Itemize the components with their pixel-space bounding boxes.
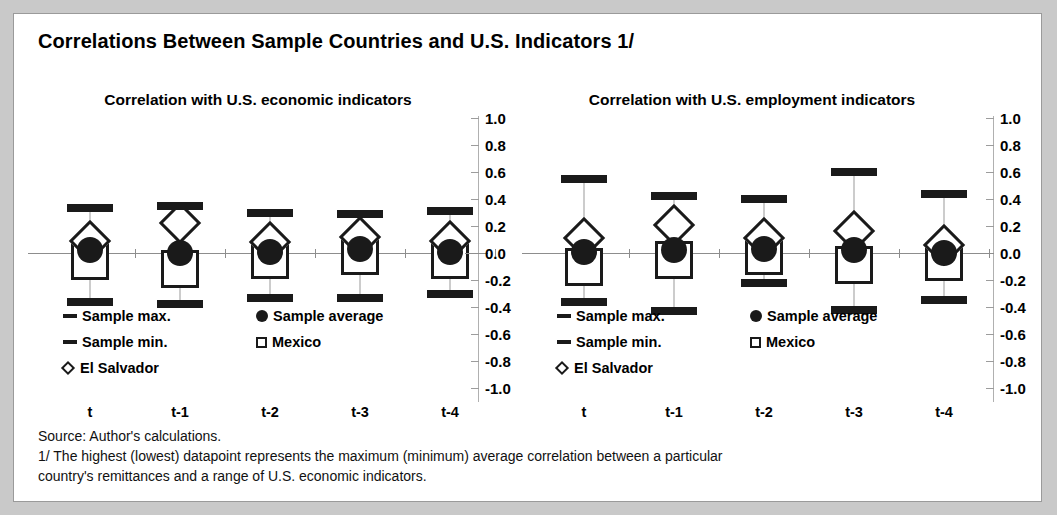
marker-sample-max: [337, 210, 383, 218]
y-axis-tick: [986, 145, 994, 146]
x-axis-label-t-3: t-3: [845, 404, 863, 420]
marker-sample-average: [77, 237, 103, 263]
x-axis-label-t-1: t-1: [171, 404, 189, 420]
legend-el-salvador-label: El Salvador: [574, 360, 653, 376]
y-axis-tick: [471, 199, 479, 200]
y-axis-tick-label: 0.6: [485, 164, 506, 181]
legend-sample-max: Sample max.: [63, 308, 171, 324]
dash-icon: [63, 314, 77, 318]
marker-sample-max: [67, 204, 113, 212]
marker-sample-max: [831, 168, 877, 176]
x-axis-tick: [315, 249, 316, 258]
panel-title-employment: Correlation with U.S. employment indicat…: [522, 91, 982, 109]
marker-sample-max: [561, 175, 607, 183]
x-axis-tick: [719, 249, 720, 258]
x-axis-label-t-4: t-4: [441, 404, 459, 420]
legend-sample-max-label: Sample max.: [82, 308, 171, 324]
marker-sample-min: [921, 296, 967, 304]
marker-sample-min: [337, 294, 383, 302]
y-axis-tick: [471, 388, 479, 389]
legend-mexico: Mexico: [256, 334, 321, 350]
marker-sample-max: [157, 202, 203, 210]
legend-sample-max: Sample max.: [557, 308, 665, 324]
legend-sample-min: Sample min.: [557, 334, 661, 350]
y-axis-tick: [986, 118, 994, 119]
y-axis-tick-label: 0.8: [1000, 137, 1021, 154]
marker-sample-max: [921, 190, 967, 198]
dash-icon: [63, 340, 77, 344]
marker-sample-min: [427, 290, 473, 298]
marker-sample-max: [427, 207, 473, 215]
legend-sample-average-label: Sample average: [273, 308, 383, 324]
y-axis-tick-label: 1.0: [485, 110, 506, 127]
x-axis-tick: [405, 249, 406, 258]
legend-el-salvador: El Salvador: [63, 360, 159, 376]
marker-sample-average: [347, 236, 373, 262]
y-axis-tick-label: -1.0: [485, 380, 511, 397]
legend-sample-min-label: Sample min.: [82, 334, 167, 350]
axis-spine: [478, 116, 479, 402]
y-axis-tick-label: -1.0: [1000, 380, 1026, 397]
dash-icon: [557, 314, 571, 318]
y-axis-tick-label: 0.0: [1000, 245, 1021, 262]
dash-icon: [557, 340, 571, 344]
y-axis-tick-label: -0.2: [485, 272, 511, 289]
legend-el-salvador-label: El Salvador: [80, 360, 159, 376]
legend-sample-min-label: Sample min.: [576, 334, 661, 350]
y-axis-tick: [471, 361, 479, 362]
marker-sample-max: [741, 195, 787, 203]
source-line: Source: Author's calculations.: [38, 426, 938, 446]
y-axis-tick: [986, 226, 994, 227]
y-axis-tick-label: -0.2: [1000, 272, 1026, 289]
marker-sample-average: [437, 239, 463, 265]
legend-sample-average-label: Sample average: [767, 308, 877, 324]
marker-sample-average: [931, 240, 957, 266]
y-axis-tick: [471, 334, 479, 335]
open-square-icon: [750, 337, 761, 348]
x-axis-tick: [225, 249, 226, 258]
marker-sample-max: [247, 209, 293, 217]
y-axis-tick: [986, 307, 994, 308]
marker-sample-average: [661, 237, 687, 263]
y-axis-tick: [986, 172, 994, 173]
legend-sample-max-label: Sample max.: [576, 308, 665, 324]
y-axis-tick-label: 0.0: [485, 245, 506, 262]
y-axis-tick-label: 0.2: [485, 218, 506, 235]
y-axis-tick-label: 0.4: [485, 191, 506, 208]
y-axis-tick: [471, 226, 479, 227]
chart-panel-economic: Correlation with U.S. economic indicator…: [28, 82, 488, 402]
y-axis-tick: [986, 388, 994, 389]
footnote-line-2: country's remittances and a range of U.S…: [38, 466, 938, 486]
figure-notes: Source: Author's calculations. 1/ The hi…: [38, 426, 938, 486]
y-axis-tick-label: -0.8: [1000, 353, 1026, 370]
legend-sample-min: Sample min.: [63, 334, 167, 350]
y-axis-tick: [471, 172, 479, 173]
y-axis-tick: [980, 253, 994, 254]
y-axis-tick-label: 0.4: [1000, 191, 1021, 208]
chart-panel-employment: Correlation with U.S. employment indicat…: [522, 82, 982, 402]
y-axis-tick-label: -0.8: [485, 353, 511, 370]
marker-sample-min: [561, 298, 607, 306]
y-axis-tick: [986, 361, 994, 362]
marker-sample-average: [257, 239, 283, 265]
x-axis-label-t-2: t-2: [261, 404, 279, 420]
y-axis-tick: [986, 199, 994, 200]
legend-sample-average: Sample average: [256, 308, 383, 324]
marker-sample-max: [651, 192, 697, 200]
y-axis-tick: [986, 334, 994, 335]
footnote-line-1: 1/ The highest (lowest) datapoint repres…: [38, 446, 938, 466]
filled-circle-icon: [256, 310, 268, 322]
y-axis-tick-label: -0.4: [1000, 299, 1026, 316]
legend-mexico-label: Mexico: [766, 334, 815, 350]
legend-mexico: Mexico: [750, 334, 815, 350]
y-axis-tick-label: 1.0: [1000, 110, 1021, 127]
y-axis-tick: [471, 118, 479, 119]
y-axis-tick-label: -0.6: [1000, 326, 1026, 343]
y-axis-tick: [471, 145, 479, 146]
x-axis-label-t: t: [88, 404, 93, 420]
legend-el-salvador: El Salvador: [557, 360, 653, 376]
x-axis-label-t-4: t-4: [935, 404, 953, 420]
open-diamond-icon: [555, 361, 569, 375]
y-axis-tick: [471, 280, 479, 281]
y-axis-right: 1.00.80.60.40.20.0-0.2-0.4-0.6-0.8-1.0: [984, 116, 1044, 402]
